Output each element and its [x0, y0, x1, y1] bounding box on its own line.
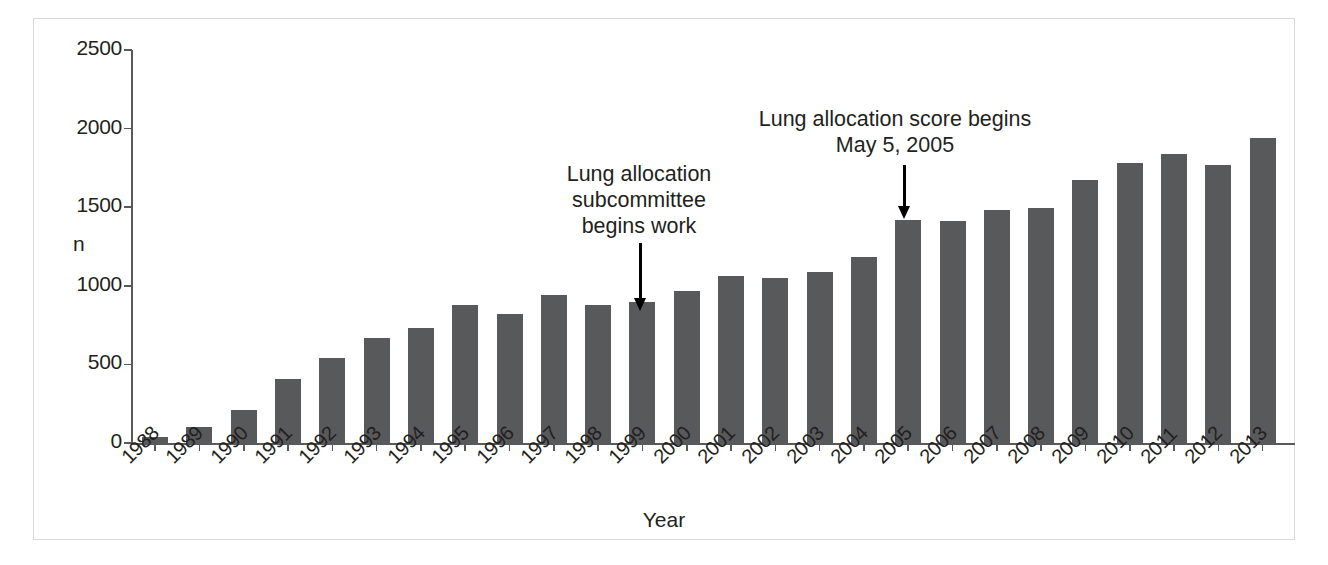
bar	[895, 220, 921, 443]
x-axis-title: Year	[0, 508, 1328, 532]
annotation-lung-allocation-score: Lung allocation score begins May 5, 2005	[740, 106, 1050, 158]
y-tick	[124, 49, 132, 51]
annotation-lung-allocation-subcommittee: Lung allocation subcommittee begins work	[519, 161, 759, 239]
arrow-shaft	[903, 165, 906, 206]
y-tick	[124, 206, 132, 208]
y-tick	[124, 364, 132, 366]
arrow-shaft	[639, 243, 642, 298]
bar	[1205, 165, 1231, 443]
y-tick	[124, 128, 132, 130]
bar-chart: 05001000150020002500 1988198919901991199…	[0, 0, 1328, 565]
arrow-head	[898, 206, 910, 219]
bar	[1117, 163, 1143, 443]
bar	[718, 276, 744, 443]
x-tick-label: 1988	[117, 422, 164, 469]
bar	[762, 278, 788, 443]
y-tick-label: 2000	[76, 115, 122, 139]
y-axis-line	[131, 50, 133, 444]
bar	[984, 210, 1010, 443]
bar	[541, 295, 567, 443]
y-axis-title: n	[73, 232, 85, 256]
bar	[1250, 138, 1276, 443]
arrow-head	[634, 298, 646, 311]
bar	[807, 272, 833, 443]
y-tick-label: 2500	[76, 36, 122, 60]
y-tick-label: 1000	[76, 272, 122, 296]
y-tick	[124, 285, 132, 287]
bar	[1072, 180, 1098, 443]
bar	[940, 221, 966, 443]
y-tick-label: 1500	[76, 193, 122, 217]
bar	[1161, 154, 1187, 443]
bar	[1028, 208, 1054, 443]
bar	[674, 291, 700, 443]
y-tick-label: 500	[88, 350, 122, 374]
bar	[851, 257, 877, 443]
